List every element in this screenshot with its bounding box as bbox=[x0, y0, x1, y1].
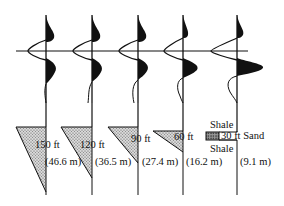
seismic-trace-1 bbox=[28, 15, 56, 103]
thickness-label-m-5: (9.1 m) bbox=[240, 156, 271, 168]
seismic-trace-4 bbox=[164, 15, 198, 103]
thickness-label-ft-3: 90 ft bbox=[131, 133, 151, 144]
thickness-label-ft-5: 30 ft Sand bbox=[221, 130, 265, 141]
seismic-trace-2 bbox=[73, 15, 102, 103]
thickness-label-m-4: (16.2 m) bbox=[186, 156, 223, 168]
seismic-trace-3 bbox=[119, 15, 148, 103]
thickness-label-m-2: (36.5 m) bbox=[95, 156, 132, 168]
sand-wedge-4 bbox=[153, 103, 183, 195]
seismic-trace-5 bbox=[211, 15, 263, 103]
thickness-label-m-3: (27.4 m) bbox=[142, 156, 179, 168]
lower-shale-label: Shale bbox=[210, 143, 234, 154]
thickness-label-ft-1: 150 ft bbox=[35, 139, 60, 150]
thickness-label-m-1: (46.6 m) bbox=[45, 156, 82, 168]
sand-wedge-3 bbox=[108, 103, 138, 195]
upper-shale-label: Shale bbox=[210, 119, 234, 130]
seismic-wedge-diagram: 150 ft (46.6 m) 120 ft (36.5 m) 90 ft (2… bbox=[0, 0, 284, 206]
thickness-label-ft-2: 120 ft bbox=[80, 139, 105, 150]
thickness-label-ft-4: 60 ft bbox=[174, 131, 194, 142]
